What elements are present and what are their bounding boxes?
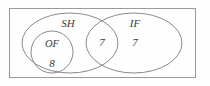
subset-label-of: OF [45,38,60,49]
set-label-if: IF [129,17,141,29]
venn-diagram-container: SH IF OF 8 7 7 [0,0,210,86]
count-intersection-region: 7 [99,36,105,48]
set-label-sh: SH [61,17,76,29]
venn-diagram-canvas: SH IF OF 8 7 7 [0,0,210,86]
count-of-region: 8 [49,57,55,69]
count-if-only-region: 7 [132,36,138,48]
